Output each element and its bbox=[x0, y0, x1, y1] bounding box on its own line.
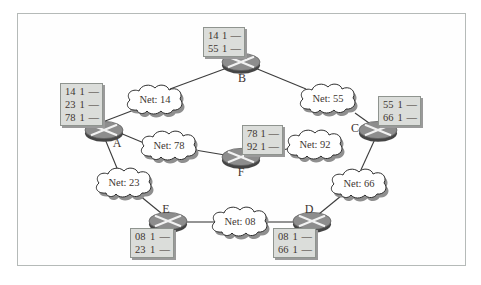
dest-network: 78 bbox=[65, 111, 76, 124]
link-B-net55 bbox=[255, 68, 306, 89]
router-label-A: A bbox=[110, 136, 124, 150]
dest-network: 55 bbox=[383, 98, 394, 111]
link-C-net66 bbox=[360, 139, 375, 172]
cloud-label-net92: Net: 92 bbox=[287, 138, 343, 152]
cloud-label-net55: Net: 55 bbox=[300, 92, 356, 106]
routing-table-row: 08 1 — bbox=[274, 230, 315, 243]
next-hop: — bbox=[302, 243, 312, 256]
routing-table-row: 55 1 — bbox=[204, 42, 244, 55]
hop-count: 1 bbox=[222, 29, 227, 42]
routing-table-B: 14 1 — 55 1 — bbox=[203, 27, 245, 57]
hop-count: 1 bbox=[79, 98, 84, 111]
hop-count: 1 bbox=[292, 230, 297, 243]
next-hop: — bbox=[89, 98, 99, 111]
next-hop: — bbox=[269, 127, 279, 140]
next-hop: — bbox=[407, 111, 417, 124]
hop-count: 1 bbox=[292, 243, 297, 256]
dest-network: 08 bbox=[135, 230, 146, 243]
link-B-net14 bbox=[170, 68, 227, 89]
next-hop: — bbox=[89, 111, 99, 124]
dest-network: 55 bbox=[208, 42, 219, 55]
dest-network: 23 bbox=[65, 98, 76, 111]
dest-network: 92 bbox=[247, 140, 258, 153]
hop-count: 1 bbox=[260, 140, 265, 153]
cloud-label-net08: Net: 08 bbox=[212, 215, 268, 229]
routing-table-E: 08 1 — 23 1 — bbox=[130, 228, 174, 258]
dest-network: 78 bbox=[247, 127, 258, 140]
next-hop: — bbox=[302, 230, 312, 243]
hop-count: 1 bbox=[397, 98, 402, 111]
router-label-F: F bbox=[234, 165, 248, 179]
router-label-D: D bbox=[302, 202, 316, 216]
hop-count: 1 bbox=[79, 85, 84, 98]
routing-table-row: 66 1 — bbox=[274, 243, 315, 256]
routing-table-row: 78 1 — bbox=[243, 127, 282, 140]
next-hop: — bbox=[269, 140, 279, 153]
dest-network: 66 bbox=[278, 243, 289, 256]
next-hop: — bbox=[407, 98, 417, 111]
cloud-label-net78: Net: 78 bbox=[141, 139, 197, 153]
router-label-E: E bbox=[159, 202, 173, 216]
routing-table-C: 55 1 — 66 1 — bbox=[378, 96, 421, 126]
routing-table-row: 23 1 — bbox=[131, 243, 173, 256]
routing-table-A: 14 1 — 23 1 — 78 1 — bbox=[60, 83, 103, 126]
hop-count: 1 bbox=[150, 243, 155, 256]
next-hop: — bbox=[89, 85, 99, 98]
next-hop: — bbox=[231, 29, 241, 42]
routing-table-D: 08 1 — 66 1 — bbox=[273, 228, 316, 258]
next-hop: — bbox=[231, 42, 241, 55]
hop-count: 1 bbox=[79, 111, 84, 124]
network-diagram: Net: 14 Net: 55 Net: 78 Net: 92 Net: 23 … bbox=[0, 0, 481, 285]
cloud-label-net66: Net: 66 bbox=[331, 177, 387, 191]
routing-table-row: 92 1 — bbox=[243, 140, 282, 153]
router-label-B: B bbox=[235, 71, 249, 85]
cloud-label-net23: Net: 23 bbox=[96, 176, 152, 190]
dest-network: 14 bbox=[208, 29, 219, 42]
next-hop: — bbox=[160, 243, 170, 256]
dest-network: 14 bbox=[65, 85, 76, 98]
dest-network: 66 bbox=[383, 111, 394, 124]
link-net66-D bbox=[319, 196, 341, 214]
routing-table-row: 14 1 — bbox=[61, 85, 102, 98]
routing-table-row: 14 1 — bbox=[204, 29, 244, 42]
link-net78-F bbox=[195, 150, 225, 155]
hop-count: 1 bbox=[397, 111, 402, 124]
router-label-C: C bbox=[348, 121, 362, 135]
dest-network: 23 bbox=[135, 243, 146, 256]
hop-count: 1 bbox=[260, 127, 265, 140]
next-hop: — bbox=[160, 230, 170, 243]
routing-table-row: 78 1 — bbox=[61, 111, 102, 124]
routing-table-row: 08 1 — bbox=[131, 230, 173, 243]
dest-network: 08 bbox=[278, 230, 289, 243]
routing-table-row: 55 1 — bbox=[379, 98, 420, 111]
hop-count: 1 bbox=[150, 230, 155, 243]
routing-table-row: 23 1 — bbox=[61, 98, 102, 111]
cloud-label-net14: Net: 14 bbox=[127, 93, 183, 107]
hop-count: 1 bbox=[222, 42, 227, 55]
routing-table-row: 66 1 — bbox=[379, 111, 420, 124]
routing-table-F: 78 1 — 92 1 — bbox=[242, 125, 283, 155]
